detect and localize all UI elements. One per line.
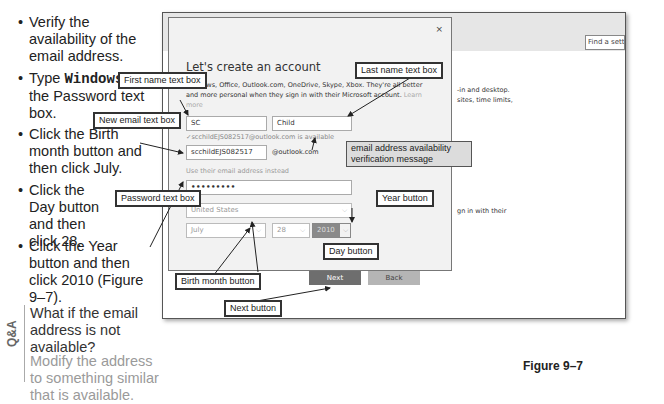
callout-new-email: New email text box — [93, 112, 181, 129]
callout-next: Next button — [224, 300, 282, 317]
callout-password: Password text box — [115, 190, 201, 207]
callout-birth-month: Birth month button — [175, 273, 261, 290]
figure-caption: Figure 9–7 — [523, 359, 583, 373]
callout-year: Year button — [376, 190, 434, 207]
callout-first-name: First name text box — [118, 72, 207, 89]
callout-availability: email address availability verification … — [346, 141, 472, 167]
callout-day: Day button — [323, 243, 379, 260]
callout-last-name: Last name text box — [355, 62, 443, 79]
